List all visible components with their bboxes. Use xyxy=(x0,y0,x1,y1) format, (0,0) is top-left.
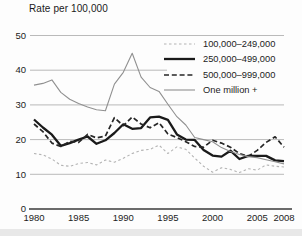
y-tick-label: 30 xyxy=(15,99,26,110)
chart-figure: Rate per 100,000 01020304050198019851990… xyxy=(0,0,302,236)
x-tick-label: 2000 xyxy=(202,212,223,223)
legend-item: 500,000–999,000 xyxy=(164,67,275,83)
x-tick-label: 1985 xyxy=(68,212,89,223)
legend-item: 100,000–249,000 xyxy=(164,36,275,52)
legend-label: One million + xyxy=(203,85,258,95)
legend-line-sample-icon xyxy=(164,39,195,49)
series-line-0 xyxy=(34,145,284,172)
series-line-1 xyxy=(34,117,284,161)
series-line-2 xyxy=(34,117,284,156)
legend-label: 500,000–999,000 xyxy=(203,70,275,80)
legend-item: 250,000–499,000 xyxy=(164,52,275,68)
x-tick-label: 2005 xyxy=(247,212,268,223)
x-tick-label: 1995 xyxy=(157,212,178,223)
legend-label: 250,000–499,000 xyxy=(203,54,275,64)
y-tick-label: 50 xyxy=(15,30,26,41)
legend-label: 100,000–249,000 xyxy=(203,39,275,49)
legend-line-sample-icon xyxy=(164,70,195,80)
x-tick-label: 2008 xyxy=(273,212,294,223)
legend-item: One million + xyxy=(164,83,275,99)
y-tick-label: 40 xyxy=(15,64,26,75)
x-tick-label: 1990 xyxy=(113,212,134,223)
legend-line-sample-icon xyxy=(164,54,195,64)
y-tick-label: 20 xyxy=(15,134,26,145)
scan-artifact-strip xyxy=(0,229,302,236)
legend-line-sample-icon xyxy=(164,85,195,95)
legend: 100,000–249,000 250,000–499,000 500,000–… xyxy=(164,36,275,98)
x-tick-label: 1980 xyxy=(23,212,44,223)
y-tick-label: 10 xyxy=(15,169,26,180)
